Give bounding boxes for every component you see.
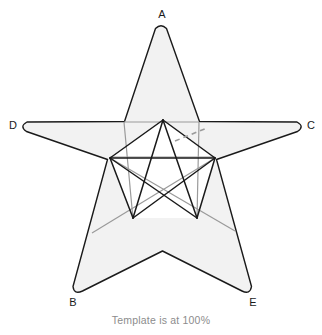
- star-diagram: A C D B E: [0, 0, 322, 312]
- vertex-label-d: D: [9, 119, 17, 131]
- star-template-figure: A C D B E Template is at 100%: [0, 0, 322, 335]
- vertex-label-c: C: [307, 119, 315, 131]
- vertex-label-a: A: [158, 8, 166, 20]
- template-scale-caption: Template is at 100%: [0, 314, 322, 326]
- vertex-label-e: E: [249, 296, 256, 308]
- vertex-label-b: B: [69, 296, 76, 308]
